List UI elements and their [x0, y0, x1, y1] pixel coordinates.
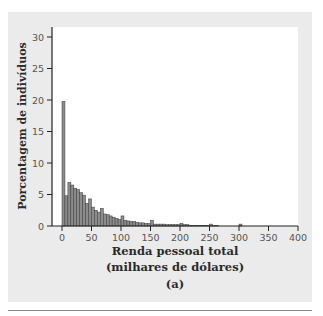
histogram-bar [83, 195, 86, 226]
x-axis-label-line1: Renda pessoal total [52, 244, 298, 258]
histogram-bar [71, 185, 74, 226]
x-axis-label-line2: (milhares de dólares) [52, 260, 298, 274]
histogram-bar [121, 216, 124, 226]
histogram-bar [100, 208, 103, 226]
histogram-bar [62, 101, 65, 226]
x-tick-label: 300 [230, 232, 248, 243]
histogram-bar [124, 220, 127, 226]
y-tick-label: 25 [32, 63, 44, 74]
histogram-bar [80, 193, 83, 226]
y-tick-label: 10 [32, 158, 44, 169]
figure-caption: (a) [52, 277, 298, 291]
histogram-bar [74, 188, 77, 226]
histogram-bar [89, 199, 92, 226]
histogram-bar [118, 220, 121, 226]
histogram-bar [151, 220, 154, 226]
histogram-bar [109, 216, 112, 226]
x-tick-label: 150 [141, 232, 159, 243]
y-tick-label: 15 [32, 126, 44, 137]
histogram-bar [65, 196, 68, 226]
histogram-bar [115, 218, 118, 226]
histogram-bar [133, 222, 136, 226]
x-tick-label: 100 [112, 232, 130, 243]
y-tick-label: 20 [32, 95, 44, 106]
y-tick-label: 30 [32, 32, 44, 43]
x-tick-label: 200 [171, 232, 189, 243]
x-tick-label: 250 [200, 232, 218, 243]
x-tick-label: 50 [85, 232, 97, 243]
histogram-bar [77, 189, 80, 226]
x-tick-label: 0 [59, 232, 65, 243]
histogram-bar [106, 215, 109, 226]
histogram-bar [103, 214, 106, 226]
x-tick-label: 350 [259, 232, 277, 243]
histogram-bar [94, 210, 97, 226]
x-tick-label: 400 [289, 232, 307, 243]
histogram-bar [86, 203, 89, 226]
histogram-bar [112, 217, 115, 226]
histogram-bar [97, 212, 100, 226]
y-tick-label: 0 [38, 221, 44, 232]
histogram-bar [92, 207, 95, 226]
histogram-bar [127, 221, 130, 226]
divider-line [8, 310, 312, 311]
y-tick-label: 5 [38, 189, 44, 200]
y-axis-label-text: Porcentagem de indivíduos [16, 42, 29, 210]
histogram-bar [130, 222, 133, 226]
histogram-bar [68, 183, 71, 226]
